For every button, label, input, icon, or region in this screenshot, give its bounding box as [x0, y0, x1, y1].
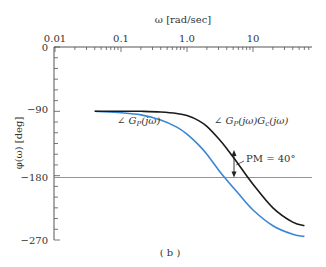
phase-plot: ω [rad/sec] 0.01 0.1 1.0 10 0 −90 −180 −…	[0, 0, 326, 267]
phase-margin-arrow	[232, 150, 245, 178]
x-tick-label: 1.0	[179, 33, 195, 44]
figure-caption: ( b )	[160, 247, 181, 258]
x-tick-label: 0.1	[113, 33, 129, 44]
x-axis-ticks	[55, 47, 309, 52]
phase-margin-label: PM = 40°	[246, 153, 295, 164]
y-axis-ticks	[54, 47, 60, 240]
y-tick-label: −180	[21, 172, 48, 183]
y-axis-title: φ(ω) [deg]	[13, 117, 24, 170]
gp-curve-label: ∠ GP(jω)	[117, 115, 160, 128]
y-tick-label: −90	[27, 104, 48, 115]
x-tick-label: 10	[247, 33, 260, 44]
y-tick-label: −270	[21, 235, 48, 246]
y-tick-label: 0	[42, 42, 48, 53]
gpgc-phase-curve	[95, 111, 305, 225]
x-axis-title: ω [rad/sec]	[155, 14, 211, 25]
gpgc-curve-label: ∠ GP(jω)Gc(jω)	[214, 115, 288, 128]
gp-phase-curve	[95, 111, 305, 236]
